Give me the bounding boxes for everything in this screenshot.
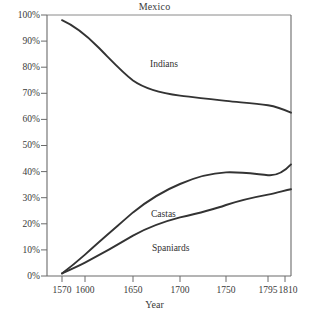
ytick-label-100: 100%: [0, 10, 40, 20]
series-path-helper11: [62, 200, 291, 274]
x-axis-title: Year: [0, 299, 309, 310]
ytick-label-10: 10%: [0, 245, 40, 255]
series-line-spaniards: [62, 189, 291, 273]
xtick-label-1750: 1750: [206, 285, 246, 295]
series-path-scratch8: [62, 194, 291, 274]
ytick-label-60: 60%: [0, 114, 40, 124]
ytick-label-50: 50%: [0, 140, 40, 150]
ytick-label-70: 70%: [0, 88, 40, 98]
series-label-castas: Castas: [151, 209, 176, 220]
ytick-label-40: 40%: [0, 167, 40, 177]
y-tick-marks: [41, 15, 47, 276]
ytick-label-80: 80%: [0, 62, 40, 72]
xtick-label-1700: 1700: [160, 285, 200, 295]
xtick-label-1650: 1650: [113, 285, 153, 295]
chart-figure: Mexico: [0, 0, 309, 319]
series-label-indians: Indians: [150, 59, 178, 70]
ytick-label-30: 30%: [0, 193, 40, 203]
x-tick-marks: [62, 276, 285, 282]
series-path-scratch2: [62, 197, 291, 273]
series-path-scratch6: [62, 195, 291, 274]
series-path-scratch7: [62, 193, 291, 273]
series-label-spaniards: Spaniards: [152, 243, 189, 254]
ytick-label-20: 20%: [0, 219, 40, 229]
ytick-label-0: 0%: [0, 271, 40, 281]
plot-area: [0, 0, 309, 319]
xtick-label-1600: 1600: [65, 285, 105, 295]
ytick-label-90: 90%: [0, 36, 40, 46]
xtick-label-1810: 1810: [268, 285, 308, 295]
series-path-scratch5: [62, 206, 226, 273]
